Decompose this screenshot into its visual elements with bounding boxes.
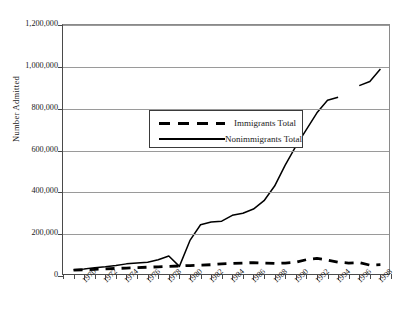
- y-tick-mark: [58, 25, 63, 26]
- legend-label-nonimmigrants: Nonimmigrants Total: [225, 135, 302, 144]
- gridline: [63, 234, 389, 235]
- y-tick-label: 1,000,000: [0, 62, 58, 70]
- immigration-line-chart: Number Admitted 0200,000400,000600,00080…: [0, 0, 407, 317]
- chart-legend: Immigrants Total Nonimmigrants Total: [149, 110, 303, 148]
- gridline: [63, 25, 389, 26]
- y-tick-label: 600,000: [0, 146, 58, 154]
- series-path-nonimmigrants: [359, 69, 380, 86]
- y-tick-mark: [58, 109, 63, 110]
- y-axis-tick-labels: 0200,000400,000600,000800,0001,000,0001,…: [0, 0, 58, 317]
- y-tick-mark: [58, 192, 63, 193]
- legend-label-immigrants: Immigrants Total: [234, 119, 296, 128]
- gridline: [63, 109, 389, 110]
- y-tick-label: 0: [0, 271, 58, 279]
- plot-area: Immigrants Total Nonimmigrants Total: [62, 24, 390, 275]
- gridline: [63, 151, 389, 152]
- gridline: [63, 67, 389, 68]
- y-tick-mark: [58, 234, 63, 235]
- top-text-remnant: [0, 0, 407, 7]
- gridline: [63, 192, 389, 193]
- y-tick-mark: [58, 67, 63, 68]
- y-tick-label: 400,000: [0, 187, 58, 195]
- legend-row-immigrants: Immigrants Total: [150, 115, 302, 131]
- y-tick-label: 200,000: [0, 229, 58, 237]
- y-tick-label: 800,000: [0, 104, 58, 112]
- dashed-line-icon: [150, 115, 234, 131]
- legend-row-nonimmigrants: Nonimmigrants Total: [150, 131, 302, 147]
- y-tick-label: 1,200,000: [0, 20, 58, 28]
- y-tick-mark: [58, 151, 63, 152]
- solid-line-icon: [150, 131, 225, 147]
- x-axis-tick-labels: 1970197219741976197819801982198419861988…: [0, 279, 407, 317]
